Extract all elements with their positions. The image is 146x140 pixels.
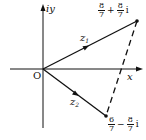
y-axis-label: iy bbox=[46, 4, 55, 14]
p2-real-denominator: 7 bbox=[108, 125, 115, 133]
p2-imag-denominator: 7 bbox=[127, 125, 134, 133]
z1-label: z1 bbox=[80, 33, 89, 44]
p1-real-denominator: 7 bbox=[98, 11, 105, 19]
vector-z1 bbox=[43, 21, 137, 69]
p2-imag-fraction: 8 7 bbox=[127, 116, 134, 133]
p1-imag-fraction: 8 7 bbox=[117, 2, 124, 19]
z1-direction-arrow-icon bbox=[83, 46, 90, 51]
p2-operator: − bbox=[117, 120, 125, 129]
p2-imag-unit: i bbox=[136, 120, 139, 129]
y-axis-arrow-icon bbox=[41, 4, 46, 11]
z2-label: z2 bbox=[70, 97, 79, 108]
p2-real-fraction: 6 7 bbox=[108, 116, 115, 133]
point-p2-label: 6 7 − 8 7 i bbox=[108, 116, 139, 133]
x-axis-label: x bbox=[127, 72, 133, 82]
p1-real-fraction: 8 7 bbox=[98, 2, 105, 19]
x-axis-arrow-icon bbox=[136, 67, 143, 72]
origin-label: O bbox=[33, 71, 41, 81]
z2-label-sub: 2 bbox=[75, 101, 79, 108]
point-p1-label: 8 7 + 8 7 i bbox=[98, 2, 129, 19]
z1-label-sub: 1 bbox=[85, 37, 89, 44]
p1-imag-unit: i bbox=[126, 6, 129, 15]
p1-imag-denominator: 7 bbox=[117, 11, 124, 19]
p1-operator: + bbox=[107, 6, 115, 15]
